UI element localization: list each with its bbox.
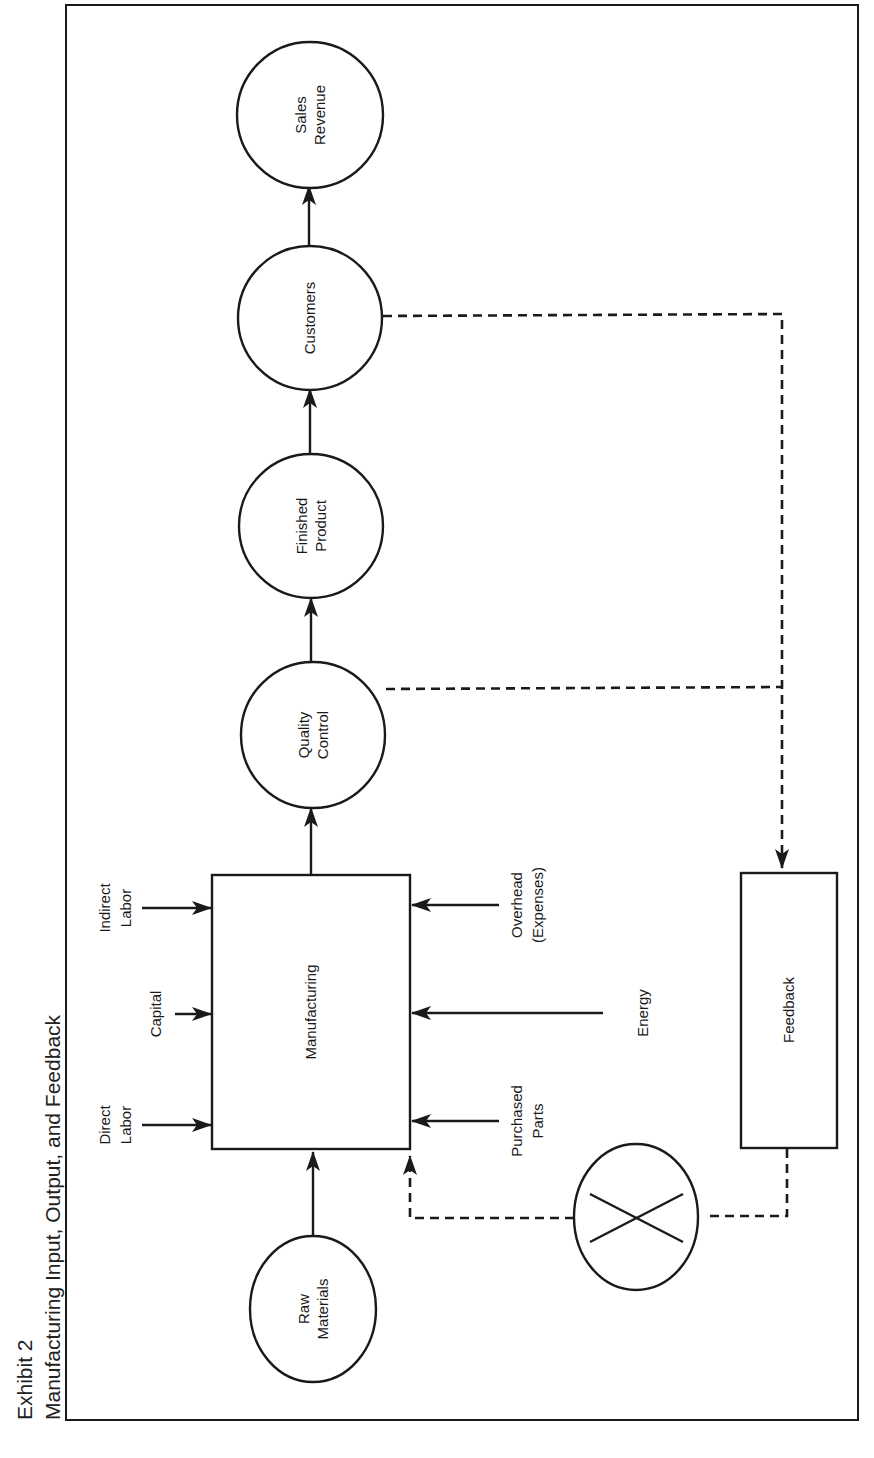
diagram-frame xyxy=(66,5,858,1420)
raw-materials-line2: Materials xyxy=(314,1279,331,1340)
customers-label: Customers xyxy=(301,282,318,355)
overhead-line1: Overhead xyxy=(508,872,525,938)
feedback-loop-lines xyxy=(383,314,787,1218)
finished-product-line1: Finished xyxy=(293,498,310,555)
finished-product-line2: Product xyxy=(312,499,329,552)
label-direct-labor: Direct Labor xyxy=(96,1105,134,1145)
direct-labor-line1: Direct xyxy=(96,1105,113,1145)
label-indirect-labor: Indirect Labor xyxy=(96,883,134,933)
sales-revenue-line1: Sales xyxy=(292,96,309,134)
node-finished-product: Finished Product xyxy=(239,454,383,598)
dashed-qc-to-junction xyxy=(386,687,783,689)
node-manufacturing: Manufacturing xyxy=(212,875,410,1149)
label-energy: Energy xyxy=(634,989,651,1037)
exhibit-number: Exhibit 2 xyxy=(13,1339,36,1420)
node-quality-control: Quality Control xyxy=(241,662,385,808)
energy-label: Energy xyxy=(634,989,651,1037)
dashed-feedback-to-comparator xyxy=(706,1149,787,1216)
purchased-parts-line2: Parts xyxy=(529,1103,546,1138)
overhead-line2: (Expenses) xyxy=(529,867,546,943)
feedback-label: Feedback xyxy=(780,977,797,1043)
node-comparator xyxy=(574,1144,698,1290)
exhibit-title: Manufacturing Input, Output, and Feedbac… xyxy=(41,1014,64,1420)
capital-label: Capital xyxy=(147,991,164,1038)
label-capital: Capital xyxy=(147,991,164,1038)
node-raw-materials: Raw Materials xyxy=(250,1236,376,1382)
quality-control-line2: Control xyxy=(314,711,331,759)
node-sales-revenue: Sales Revenue xyxy=(237,42,383,188)
raw-materials-line1: Raw xyxy=(295,1294,312,1324)
label-overhead: Overhead (Expenses) xyxy=(508,867,546,943)
exhibit-caption: Exhibit 2 Manufacturing Input, Output, a… xyxy=(13,1014,64,1420)
quality-control-line1: Quality xyxy=(295,711,312,758)
purchased-parts-line1: Purchased xyxy=(508,1085,525,1157)
node-feedback: Feedback xyxy=(741,873,837,1148)
manufacturing-label: Manufacturing xyxy=(302,964,319,1059)
label-purchased-parts: Purchased Parts xyxy=(508,1085,546,1157)
indirect-labor-line2: Labor xyxy=(117,889,134,927)
dashed-customers-to-feedback xyxy=(383,314,782,868)
dashed-comparator-to-manufacturing xyxy=(410,1156,574,1218)
indirect-labor-line1: Indirect xyxy=(96,883,113,933)
node-customers: Customers xyxy=(238,246,382,390)
direct-labor-line2: Labor xyxy=(117,1106,134,1144)
sales-revenue-line2: Revenue xyxy=(311,85,328,145)
diagram-canvas: Exhibit 2 Manufacturing Input, Output, a… xyxy=(0,0,874,1458)
